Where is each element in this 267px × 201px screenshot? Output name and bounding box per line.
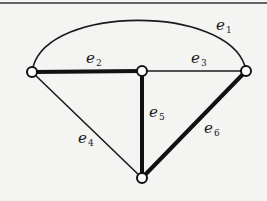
label-e4-index: 4 <box>88 138 94 148</box>
label-e6-letter: e <box>204 119 213 137</box>
label-e3-letter: e <box>191 49 200 67</box>
label-e1: e1 <box>216 18 232 35</box>
label-e4-letter: e <box>78 129 87 147</box>
label-e1-index: 1 <box>226 25 232 35</box>
edge-e6 <box>142 71 246 178</box>
label-e1-letter: e <box>216 16 225 34</box>
label-e5-index: 5 <box>159 112 165 122</box>
label-e2-index: 2 <box>96 58 102 68</box>
label-e6-index: 6 <box>214 128 220 138</box>
edge-e2 <box>32 71 142 72</box>
label-e2-letter: e <box>86 49 95 67</box>
node-bottom <box>137 173 147 183</box>
label-e4: e4 <box>78 131 94 148</box>
node-right <box>241 66 251 76</box>
label-e5: e5 <box>149 105 165 122</box>
label-e6: e6 <box>204 121 220 138</box>
label-e2: e2 <box>86 51 102 68</box>
label-e3-index: 3 <box>201 58 207 68</box>
edge-e4 <box>32 72 142 178</box>
graph-diagram: e1 e2 e3 e4 e5 e6 <box>0 0 267 201</box>
node-left <box>27 67 37 77</box>
label-e5-letter: e <box>149 103 158 121</box>
edge-e1 <box>33 20 245 67</box>
label-e3: e3 <box>191 51 207 68</box>
node-center <box>137 66 147 76</box>
